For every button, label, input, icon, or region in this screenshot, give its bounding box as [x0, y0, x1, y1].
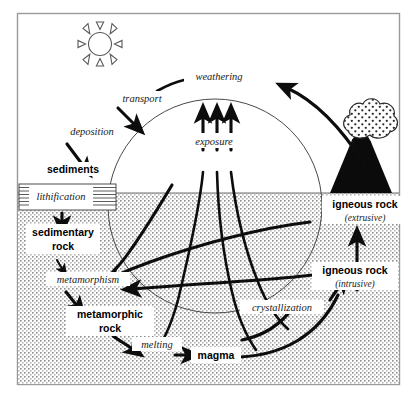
label-metamorphic-rock-line2: rock [99, 322, 121, 334]
label-deposition: deposition [70, 126, 114, 137]
label-sedimentary-rock-line2: rock [52, 240, 74, 252]
rock-cycle-diagram: weathering transport deposition sediment… [0, 0, 416, 397]
label-melting: melting [141, 339, 173, 350]
label-metamorphism: metamorphism [57, 274, 120, 285]
label-igneous-extrusive-sub: (extrusive) [345, 213, 386, 224]
label-lithification: lithification [37, 191, 86, 202]
label-igneous-intrusive-sub: (intrusive) [335, 279, 375, 290]
label-weathering: weathering [195, 71, 242, 82]
rock-cycle-canvas: weathering transport deposition sediment… [0, 0, 416, 397]
label-metamorphic-rock-line1: metamorphic [77, 308, 143, 320]
label-sediments: sediments [47, 163, 99, 175]
label-crystallization: crystallization [252, 302, 312, 313]
label-igneous-intrusive: igneous rock [322, 264, 388, 276]
label-transport: transport [122, 93, 162, 104]
label-magma: magma [198, 349, 235, 361]
label-exposure: exposure [195, 136, 233, 147]
label-igneous-extrusive: igneous rock [332, 198, 398, 210]
label-sedimentary-rock-line1: sedimentary [32, 226, 94, 238]
